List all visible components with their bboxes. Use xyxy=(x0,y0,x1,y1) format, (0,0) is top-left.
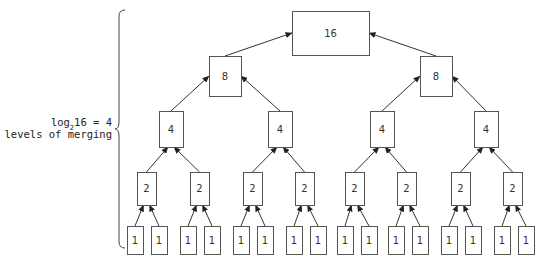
node-label: 4 xyxy=(379,124,385,135)
merge-node-1: 1 xyxy=(234,227,250,255)
merge-node-2: 2 xyxy=(504,173,523,206)
node-label: 1 xyxy=(132,235,138,246)
merge-arrow-icon xyxy=(241,205,250,226)
merge-arrow-icon xyxy=(241,76,280,111)
merge-arrow-icon xyxy=(225,33,292,56)
merge-tree-diagram: log216 = 4 levels of merging 16884444222… xyxy=(0,0,542,259)
node-label: 4 xyxy=(168,124,174,135)
merge-arrow-icon xyxy=(203,205,213,226)
merge-arrow-icon xyxy=(147,147,169,172)
merge-node-1: 1 xyxy=(442,227,458,255)
merge-arrow-icon xyxy=(410,205,421,226)
node-label: 1 xyxy=(499,235,505,246)
node-label: 1 xyxy=(523,235,529,246)
merge-arrow-icon xyxy=(452,76,486,111)
merge-node-8: 8 xyxy=(210,57,242,97)
merge-arrow-icon xyxy=(369,33,436,56)
merge-node-1: 1 xyxy=(466,227,482,255)
merge-node-2: 2 xyxy=(244,173,263,206)
node-label: 1 xyxy=(315,235,321,246)
merge-node-1: 1 xyxy=(258,227,274,255)
merge-node-4: 4 xyxy=(160,112,184,148)
merge-node-4: 4 xyxy=(371,112,395,148)
node-label: 1 xyxy=(393,235,399,246)
merge-node-1: 1 xyxy=(362,227,378,255)
node-label: 1 xyxy=(417,235,423,246)
merge-node-2: 2 xyxy=(346,173,365,206)
merge-arrow-icon xyxy=(345,205,352,226)
merge-arrow-icon xyxy=(358,205,370,226)
merge-arrow-icon xyxy=(294,205,302,226)
merge-nodes: 16884444222222221111111111111111 xyxy=(128,12,535,255)
merge-arrow-icon xyxy=(256,205,266,226)
annotation-line-2: levels of merging xyxy=(5,128,112,140)
node-label: 2 xyxy=(249,183,255,194)
merge-arrow-icon xyxy=(385,147,407,172)
node-label: 1 xyxy=(185,235,191,246)
merge-node-1: 1 xyxy=(128,227,144,255)
merge-node-1: 1 xyxy=(519,227,535,255)
merge-node-4: 4 xyxy=(269,112,293,148)
node-label: 1 xyxy=(262,235,268,246)
node-label: 8 xyxy=(222,71,228,82)
merge-arrow-icon xyxy=(253,147,278,172)
node-label: 1 xyxy=(342,235,348,246)
node-label: 2 xyxy=(351,183,357,194)
merge-arrow-icon xyxy=(396,205,404,226)
merge-arrow-icon xyxy=(135,205,144,226)
merge-arrow-icon xyxy=(382,76,420,111)
node-label: 2 xyxy=(457,183,463,194)
merge-arrow-icon xyxy=(502,205,510,226)
merge-node-2: 2 xyxy=(398,173,417,206)
merge-arrow-icon xyxy=(464,205,474,226)
merge-arrow-icon xyxy=(449,205,458,226)
node-label: 1 xyxy=(366,235,372,246)
merge-arrow-icon xyxy=(171,76,209,111)
merge-node-2: 2 xyxy=(296,173,315,206)
merge-node-2: 2 xyxy=(452,173,471,206)
node-label: 1 xyxy=(470,235,476,246)
node-label: 2 xyxy=(301,183,307,194)
merge-node-1: 1 xyxy=(311,227,327,255)
node-label: 4 xyxy=(277,124,283,135)
merge-arrow-icon xyxy=(283,147,305,172)
node-label: 2 xyxy=(143,183,149,194)
merge-node-1: 1 xyxy=(152,227,168,255)
merge-node-1: 1 xyxy=(413,227,429,255)
merge-arrow-icon xyxy=(188,205,197,226)
merge-arrow-icon xyxy=(489,147,513,172)
merge-node-2: 2 xyxy=(138,173,157,206)
merge-arrow-icon xyxy=(355,147,380,172)
merge-node-1: 1 xyxy=(338,227,354,255)
node-label: 4 xyxy=(483,124,489,135)
node-label: 1 xyxy=(238,235,244,246)
node-label: 2 xyxy=(196,183,202,194)
merge-node-2: 2 xyxy=(191,173,210,206)
merge-node-16: 16 xyxy=(293,12,370,56)
node-label: 1 xyxy=(446,235,452,246)
merge-node-4: 4 xyxy=(475,112,499,148)
merge-arrow-icon xyxy=(308,205,319,226)
node-label: 1 xyxy=(291,235,297,246)
curly-brace-icon xyxy=(115,10,125,248)
merge-arrow-icon xyxy=(174,147,200,172)
node-label: 2 xyxy=(509,183,515,194)
merge-node-8: 8 xyxy=(421,57,453,97)
node-label: 8 xyxy=(433,71,439,82)
merge-node-1: 1 xyxy=(495,227,511,255)
merge-node-1: 1 xyxy=(205,227,221,255)
node-label: 16 xyxy=(324,28,337,39)
merge-arrow-icon xyxy=(461,147,484,172)
merge-arrow-icon xyxy=(150,205,160,226)
node-label: 1 xyxy=(209,235,215,246)
merge-arrow-icon xyxy=(516,205,527,226)
merge-node-1: 1 xyxy=(287,227,303,255)
merge-node-1: 1 xyxy=(181,227,197,255)
node-label: 2 xyxy=(403,183,409,194)
node-label: 1 xyxy=(156,235,162,246)
merge-node-1: 1 xyxy=(389,227,405,255)
